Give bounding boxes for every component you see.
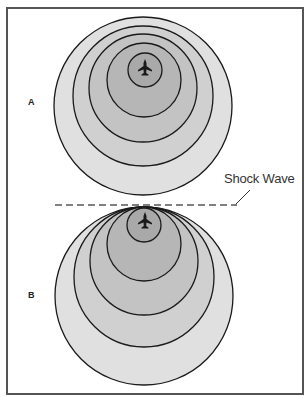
shock-wave-diagram xyxy=(0,0,308,397)
panel-a-label: A xyxy=(28,97,35,107)
panel-b-label: B xyxy=(28,290,35,300)
panel-b-sound-waves xyxy=(55,207,233,385)
shock-wave-label: Shock Wave xyxy=(224,171,295,186)
panel-a-sound-waves xyxy=(54,17,232,195)
shock-wave-leader-line xyxy=(236,190,250,204)
